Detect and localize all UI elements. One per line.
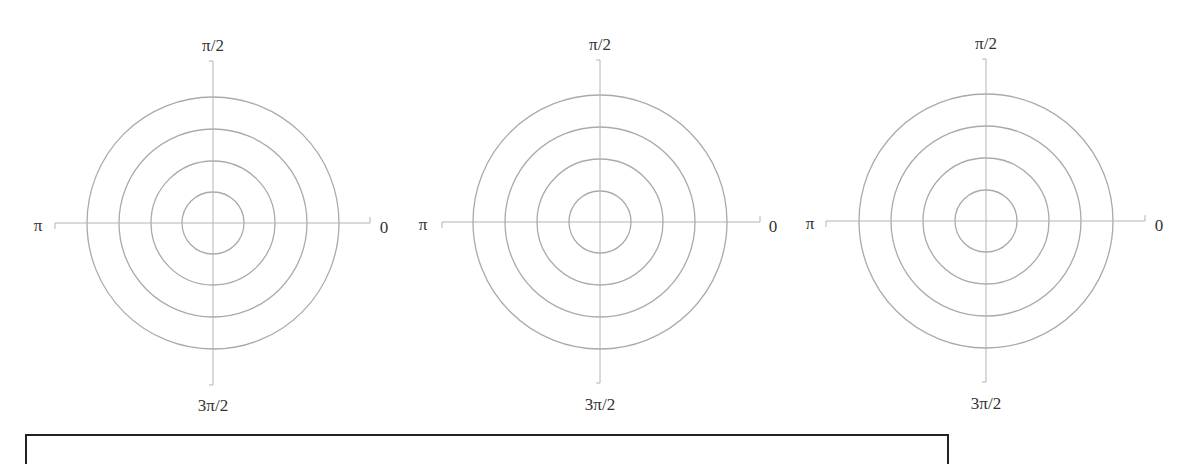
label-half-pi: π/2 — [975, 34, 997, 53]
axes — [826, 59, 1145, 382]
label-pi: π — [806, 214, 815, 233]
axes — [55, 61, 370, 385]
label-three-half-pi: 3π/2 — [198, 396, 228, 415]
label-pi: π — [34, 216, 43, 235]
label-half-pi: π/2 — [202, 36, 224, 55]
label-three-half-pi: 3π/2 — [971, 394, 1001, 413]
axes — [442, 60, 760, 383]
polar-grid-panel-3: π/2 3π/2 π 0 — [806, 34, 1164, 413]
polar-grid-panel-2: π/2 3π/2 π 0 — [419, 35, 778, 414]
label-three-half-pi: 3π/2 — [585, 395, 615, 414]
label-zero: 0 — [1155, 216, 1164, 235]
label-pi: π — [419, 215, 428, 234]
label-half-pi: π/2 — [589, 35, 611, 54]
label-zero: 0 — [769, 217, 778, 236]
label-zero: 0 — [380, 218, 389, 237]
polar-grid-panel-1: π/2 3π/2 π 0 — [34, 36, 389, 415]
answer-box[interactable] — [25, 434, 949, 464]
